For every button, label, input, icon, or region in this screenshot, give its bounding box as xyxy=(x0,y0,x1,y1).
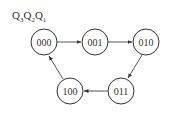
state-diagram: 000 001 010 011 100 xyxy=(0,0,171,113)
state-100-label: 100 xyxy=(63,86,78,97)
state-000-label: 000 xyxy=(37,37,52,48)
state-011-label: 011 xyxy=(114,86,129,97)
state-010-label: 010 xyxy=(139,37,154,48)
arrow-100-000 xyxy=(49,56,63,79)
state-001-label: 001 xyxy=(88,37,103,48)
arrow-010-011 xyxy=(128,55,142,78)
